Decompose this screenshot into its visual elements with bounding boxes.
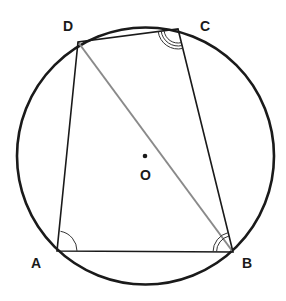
angle-a-arc <box>61 231 78 251</box>
cyclic-quadrilateral-diagram: O A B C D <box>0 0 286 301</box>
vertex-label-a: A <box>31 255 41 271</box>
vertex-label-d: D <box>63 18 73 34</box>
quadrilateral-abcd <box>57 29 233 252</box>
vertex-label-c: C <box>200 18 210 34</box>
vertex-label-b: B <box>242 255 252 271</box>
center-point <box>143 154 148 159</box>
diagonal-db <box>78 42 233 252</box>
center-label: O <box>140 167 151 183</box>
